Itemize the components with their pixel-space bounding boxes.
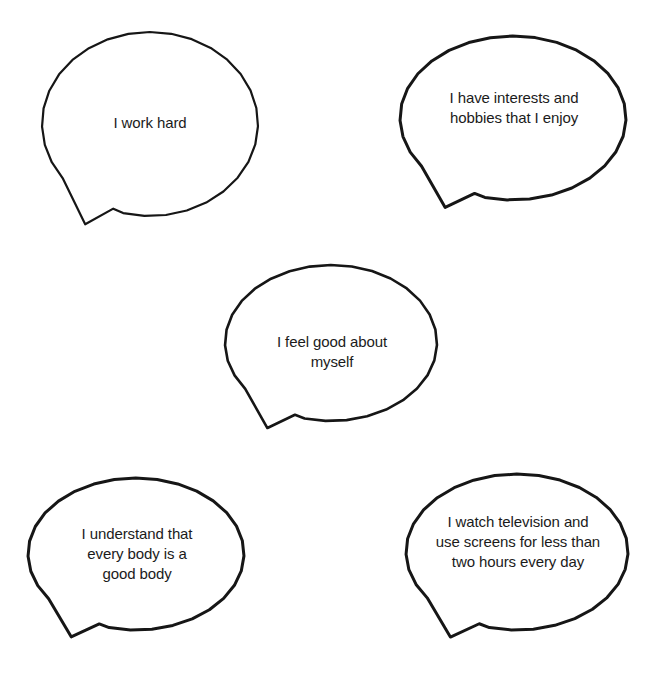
bubble-good-body — [28, 478, 244, 637]
bubble-interests-hobbies — [400, 36, 626, 207]
bubble-screen-time — [406, 474, 628, 637]
speech-bubble-diagram — [0, 0, 654, 689]
bubble-work-hard — [42, 32, 258, 224]
bubble-feel-good — [225, 265, 437, 428]
